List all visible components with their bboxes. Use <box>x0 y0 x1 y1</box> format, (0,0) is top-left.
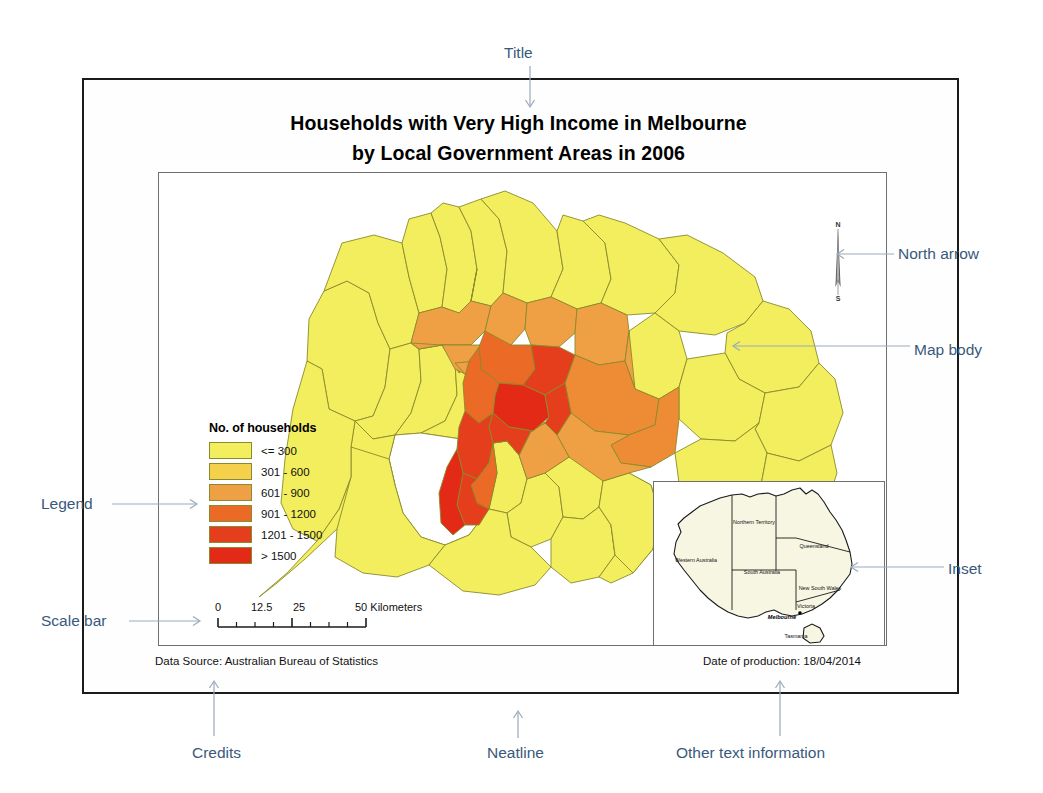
scale-bar: 0 12.5 25 50 Kilometers <box>215 601 415 631</box>
scale-bar-graphic <box>215 617 415 631</box>
page-title: Households with Very High Income in Melb… <box>82 108 955 168</box>
legend-item: 301 - 600 <box>209 461 322 482</box>
annotation-arrow-map-body <box>728 339 910 353</box>
annotation-north-arrow: North arrow <box>898 245 979 263</box>
annotation-arrow-credits <box>208 676 222 736</box>
inset-label-western-australia: Western Australia <box>675 557 717 563</box>
legend-swatch-5 <box>209 526 252 543</box>
production-date-text: Date of production: 18/04/2014 <box>703 655 861 667</box>
annotation-map-body: Map body <box>914 341 982 359</box>
annotation-inset: Inset <box>948 560 982 578</box>
map-body-frame[interactable]: N S No. of households <= 300 301 - 600 <box>158 172 887 646</box>
inset-label-tasmania: Tasmania <box>784 633 807 639</box>
legend-label-6: > 1500 <box>261 550 297 562</box>
north-arrow-s-label: S <box>827 295 849 303</box>
legend-item: > 1500 <box>209 545 322 566</box>
legend-item: 1201 - 1500 <box>209 524 322 545</box>
annotation-arrow-title <box>524 66 538 114</box>
annotation-other-text: Other text information <box>676 744 825 762</box>
title-line-2: by Local Government Areas in 2006 <box>82 138 955 168</box>
annotation-arrow-north <box>832 247 894 261</box>
legend-label-1: <= 300 <box>261 445 297 457</box>
scale-bar-labels: 0 12.5 25 50 Kilometers <box>215 601 415 617</box>
inset-label-victoria: Victoria <box>797 603 815 609</box>
legend-swatch-1 <box>209 442 252 459</box>
legend-label-2: 301 - 600 <box>261 466 310 478</box>
inset-label-south-australia: South Australia <box>744 569 780 575</box>
scale-tick-label-1: 12.5 <box>251 601 272 613</box>
scale-tick-label-0: 0 <box>215 601 221 613</box>
legend-item: 601 - 900 <box>209 482 322 503</box>
credits-text: Data Source: Australian Bureau of Statis… <box>155 655 378 667</box>
legend-label-5: 1201 - 1500 <box>261 529 322 541</box>
legend-label-3: 601 - 900 <box>261 487 310 499</box>
title-line-1: Households with Very High Income in Melb… <box>82 108 955 138</box>
annotation-arrow-neatline <box>512 706 526 738</box>
legend-swatch-6 <box>209 547 252 564</box>
legend-title: No. of households <box>209 421 322 435</box>
legend-swatch-4 <box>209 505 252 522</box>
north-arrow: N S <box>827 221 849 305</box>
legend-item: <= 300 <box>209 440 322 461</box>
annotation-title: Title <box>504 44 533 62</box>
legend-label-4: 901 - 1200 <box>261 508 316 520</box>
annotation-arrow-legend <box>112 497 202 511</box>
inset-label-new-south-wales: New South Wales <box>799 585 842 591</box>
annotation-scale-bar: Scale bar <box>41 612 106 630</box>
legend-item: 901 - 1200 <box>209 503 322 524</box>
annotation-legend: Legend <box>41 495 93 513</box>
inset-label-melbourne: Melbourne <box>768 614 796 620</box>
inset-label-queensland: Queensland <box>799 543 828 549</box>
annotation-neatline: Neatline <box>487 744 544 762</box>
legend: No. of households <= 300 301 - 600 601 -… <box>209 421 322 566</box>
legend-swatch-3 <box>209 484 252 501</box>
north-arrow-n-label: N <box>827 221 849 229</box>
legend-swatch-2 <box>209 463 252 480</box>
inset-label-northern-territory-1: Northern Territory <box>733 519 775 525</box>
annotation-arrow-inset <box>846 560 944 574</box>
scale-tick-label-3: 50 Kilometers <box>355 601 422 613</box>
page-canvas: Households with Very High Income in Melb… <box>0 0 1043 793</box>
annotation-arrow-other-text <box>774 676 788 736</box>
annotation-credits: Credits <box>192 744 241 762</box>
scale-tick-label-2: 25 <box>293 601 305 613</box>
north-arrow-needle <box>827 229 849 295</box>
annotation-arrow-scale-bar <box>129 614 205 628</box>
